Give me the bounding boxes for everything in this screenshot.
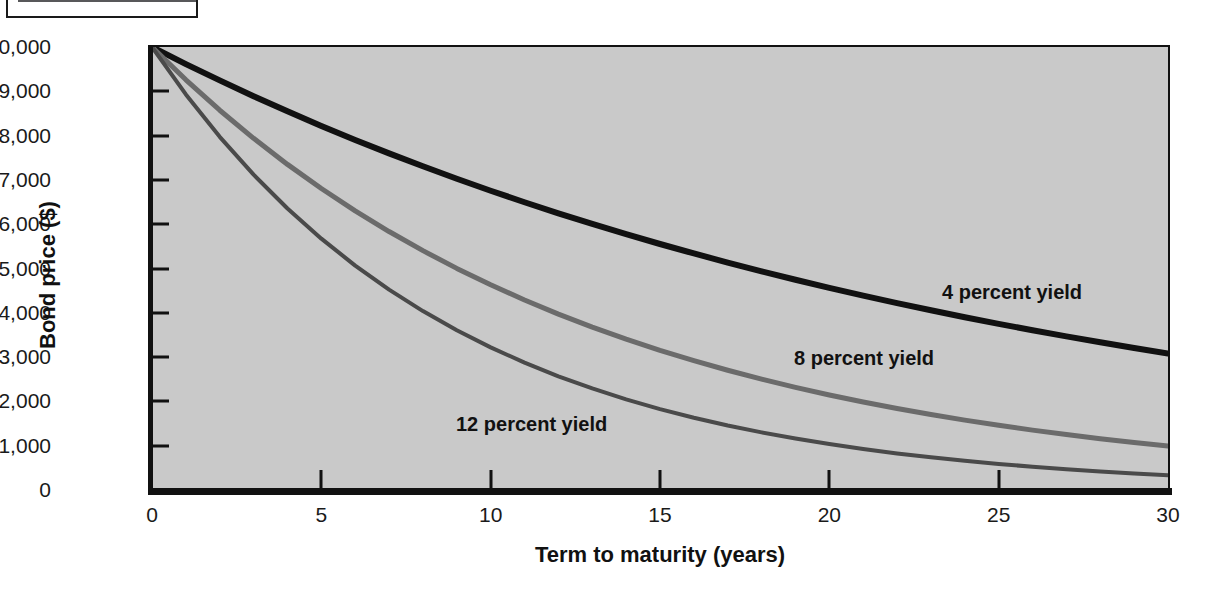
y-tick-label: 9,000	[0, 79, 51, 103]
plot-area	[150, 45, 1170, 490]
x-tick-mark	[489, 470, 492, 488]
x-tick-mark	[320, 470, 323, 488]
x-tick-label: 5	[281, 503, 361, 527]
y-tick-mark	[152, 444, 169, 447]
y-tick-mark	[152, 134, 169, 137]
chart-canvas	[152, 47, 1168, 490]
x-tick-label: 25	[959, 503, 1039, 527]
chart-title	[214, 0, 914, 2]
figure-number-banner-icon	[18, 0, 198, 2]
series-line-0	[152, 47, 1168, 353]
x-axis-title: Term to maturity (years)	[150, 542, 1170, 568]
x-tick-label: 15	[620, 503, 700, 527]
x-tick-mark	[659, 470, 662, 488]
x-axis-line	[148, 488, 1172, 495]
x-tick-label: 0	[112, 503, 192, 527]
x-tick-mark	[828, 470, 831, 488]
figure-number-badge	[6, 0, 198, 18]
y-tick-label: 10,000	[0, 35, 51, 59]
y-tick-mark	[152, 311, 169, 314]
series-label-4-percent: 4 percent yield	[942, 281, 1082, 304]
y-tick-mark	[152, 400, 169, 403]
y-tick-mark	[152, 267, 169, 270]
x-tick-label: 30	[1128, 503, 1208, 527]
y-tick-mark	[152, 223, 169, 226]
x-tick-label: 10	[451, 503, 531, 527]
series-label-8-percent: 8 percent yield	[794, 347, 934, 370]
series-line-2	[152, 47, 1168, 475]
x-tick-mark	[997, 470, 1000, 488]
y-tick-label: 8,000	[0, 124, 51, 148]
series-label-12-percent: 12 percent yield	[456, 413, 607, 436]
y-tick-mark	[152, 356, 169, 359]
x-tick-label: 20	[789, 503, 869, 527]
y-tick-mark	[152, 178, 169, 181]
y-tick-mark	[152, 90, 169, 93]
y-axis-title: Bond price ($)	[35, 145, 61, 405]
y-tick-label: 0	[0, 478, 51, 502]
y-tick-label: 1,000	[0, 434, 51, 458]
